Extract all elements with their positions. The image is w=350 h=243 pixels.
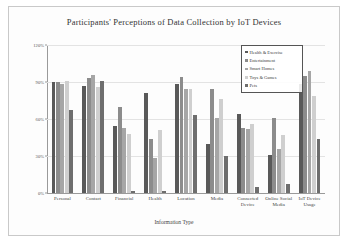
chart-legend: Health & ExerciseEntertainmentSmart Home… xyxy=(241,45,303,93)
bar-group: Health xyxy=(140,45,171,193)
legend-item-label: Toys & Games xyxy=(250,75,277,80)
bar-group: Media xyxy=(201,45,232,193)
bar[interactable] xyxy=(52,82,56,193)
legend-swatch-icon xyxy=(245,51,248,54)
y-axis-tick-label: 120% xyxy=(33,43,47,48)
bar[interactable] xyxy=(175,84,179,193)
bar[interactable] xyxy=(246,129,250,193)
bar[interactable] xyxy=(219,99,223,193)
bar[interactable] xyxy=(286,184,290,193)
chart-frame: Participants' Perceptions of Data Collec… xyxy=(8,6,340,236)
legend-item[interactable]: Health & Exercise xyxy=(245,48,299,56)
bar[interactable] xyxy=(308,71,312,193)
bar[interactable] xyxy=(210,89,214,193)
bar[interactable] xyxy=(184,89,188,193)
legend-swatch-icon xyxy=(245,68,248,71)
legend-item[interactable]: Toys & Games xyxy=(245,73,299,81)
x-axis-tick-label: Connected Device xyxy=(231,196,265,207)
bar-group: Personal xyxy=(47,45,78,193)
y-axis-tick-label: 90% xyxy=(36,80,47,85)
x-axis-tick-label: Health xyxy=(138,196,172,202)
bar[interactable] xyxy=(224,156,228,193)
x-axis-tick-label: Contact xyxy=(76,196,110,202)
bar[interactable] xyxy=(113,126,117,193)
bar[interactable] xyxy=(189,89,193,193)
x-axis-title: Information Type xyxy=(9,219,339,225)
bar[interactable] xyxy=(250,124,254,193)
bar[interactable] xyxy=(237,114,241,193)
x-axis-tick-label: Online Social Media xyxy=(262,196,296,207)
bar[interactable] xyxy=(303,76,307,193)
bar[interactable] xyxy=(60,84,64,193)
bar[interactable] xyxy=(158,130,162,193)
legend-item[interactable]: Smart Homes xyxy=(245,65,299,73)
y-axis-tick-label: 30% xyxy=(36,154,47,159)
x-axis-tick-label: Media xyxy=(200,196,234,202)
bar[interactable] xyxy=(82,86,86,193)
y-axis-tick-label: 0% xyxy=(38,191,47,196)
bar[interactable] xyxy=(100,81,104,193)
legend-swatch-icon xyxy=(245,76,248,79)
x-axis-tick-label: Financial xyxy=(107,196,141,202)
gridline-0 xyxy=(47,193,325,194)
bar-group: Financial xyxy=(109,45,140,193)
bar[interactable] xyxy=(65,81,69,193)
bar[interactable] xyxy=(268,155,272,193)
bar[interactable] xyxy=(272,118,276,193)
bar[interactable] xyxy=(281,135,285,193)
bar[interactable] xyxy=(299,84,303,193)
bar[interactable] xyxy=(131,191,135,193)
bar[interactable] xyxy=(87,78,91,193)
bar[interactable] xyxy=(255,187,259,193)
y-axis-tick-label: 60% xyxy=(36,117,47,122)
bar[interactable] xyxy=(162,191,166,193)
bar[interactable] xyxy=(317,139,321,193)
x-axis-tick-label: Location xyxy=(169,196,203,202)
x-axis-tick-label: IoT Device Usage xyxy=(293,196,327,207)
legend-item-label: Health & Exercise xyxy=(250,50,283,55)
chart-title: Participants' Perceptions of Data Collec… xyxy=(9,17,339,27)
bar[interactable] xyxy=(144,93,148,193)
bar[interactable] xyxy=(122,128,126,193)
bar[interactable] xyxy=(153,158,157,193)
legend-item-label: Smart Homes xyxy=(250,66,275,71)
bar[interactable] xyxy=(118,107,122,193)
bar[interactable] xyxy=(215,118,219,193)
bar[interactable] xyxy=(277,149,281,193)
bar[interactable] xyxy=(149,139,153,193)
bar[interactable] xyxy=(206,144,210,193)
x-axis-tick-label: Personal xyxy=(45,196,79,202)
legend-item[interactable]: Entertainment xyxy=(245,56,299,64)
bar[interactable] xyxy=(312,96,316,193)
bar[interactable] xyxy=(91,75,95,193)
bar[interactable] xyxy=(180,77,184,193)
bar-group: Location xyxy=(171,45,202,193)
legend-swatch-icon xyxy=(245,59,248,62)
bar[interactable] xyxy=(56,82,60,193)
bar[interactable] xyxy=(127,134,131,193)
legend-item-label: Pets xyxy=(250,83,258,88)
bar[interactable] xyxy=(193,115,197,193)
bar[interactable] xyxy=(69,110,73,193)
legend-swatch-icon xyxy=(245,84,248,87)
legend-item-label: Entertainment xyxy=(250,58,276,63)
bar[interactable] xyxy=(96,87,100,193)
bar[interactable] xyxy=(241,128,245,193)
bar-group: Contact xyxy=(78,45,109,193)
legend-item[interactable]: Pets xyxy=(245,82,299,90)
